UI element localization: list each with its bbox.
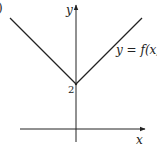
series-segment — [10, 18, 76, 84]
graph: ) x y 2 y = f(x) — [0, 0, 157, 148]
y-axis-label: y — [65, 3, 73, 17]
y-intercept-label: 2 — [68, 84, 74, 95]
series-label: y = f(x) — [115, 43, 157, 57]
vertex-point — [75, 83, 77, 85]
x-axis-label: x — [136, 133, 143, 147]
part-label: ) — [0, 1, 3, 15]
